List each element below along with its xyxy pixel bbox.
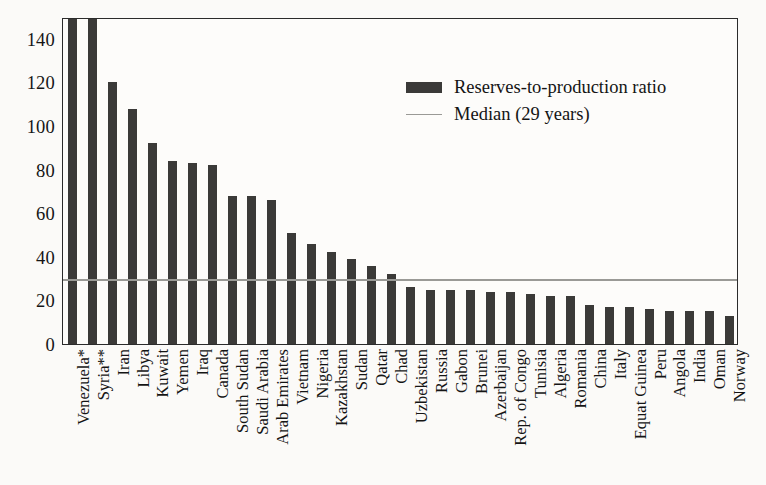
- legend-item-reserves: Reserves-to-production ratio: [403, 74, 703, 101]
- x-axis-tick-label: Qatar: [370, 349, 387, 386]
- bar: [347, 259, 356, 344]
- x-axis-tick-label: India: [688, 349, 705, 383]
- x-axis-tick-label: Iraq: [191, 349, 208, 376]
- bar: [228, 196, 237, 344]
- median-reference-line: [63, 279, 737, 280]
- x-axis-tick-label: Saudi Arabia: [251, 349, 268, 435]
- x-axis-tick-label: Peru: [649, 349, 666, 379]
- bar: [705, 311, 714, 344]
- y-axis-tick-label: 40: [36, 249, 55, 268]
- legend-label-median: Median (29 years): [445, 105, 590, 124]
- bar: [625, 307, 634, 344]
- bar: [546, 296, 555, 344]
- bar: [327, 252, 336, 344]
- bar: [88, 18, 97, 344]
- x-axis-tick-label: Brunei: [470, 349, 487, 394]
- bar: [128, 109, 137, 344]
- y-axis-tick-label: 60: [36, 205, 55, 224]
- x-axis-tick-label: Equat Guinea: [629, 349, 646, 439]
- bar: [247, 196, 256, 344]
- x-axis-tick-label: Syria**: [92, 349, 109, 400]
- bar-swatch-icon: [403, 82, 445, 93]
- bar: [168, 161, 177, 344]
- x-axis-tick-label: Venezuela*: [72, 349, 89, 425]
- x-axis-tick-label: Chad: [390, 349, 407, 384]
- x-axis-tick-label: Yemen: [171, 349, 188, 395]
- bar: [526, 294, 535, 344]
- x-axis-tick-label: Arab Emirates: [271, 349, 288, 445]
- y-axis-tick-label: 140: [27, 31, 55, 50]
- y-axis-tick-label: 80: [36, 161, 55, 180]
- bar: [367, 266, 376, 344]
- bar: [585, 305, 594, 344]
- bar: [506, 292, 515, 344]
- bar: [685, 311, 694, 344]
- bar: [307, 244, 316, 344]
- x-axis-tick-label: Italy: [609, 349, 626, 379]
- x-axis-tick-label: China: [589, 349, 606, 388]
- legend-item-median: Median (29 years): [403, 101, 703, 128]
- y-axis-tick-label: 0: [46, 336, 55, 355]
- bar: [406, 287, 415, 344]
- bar: [267, 200, 276, 344]
- bar: [108, 82, 117, 344]
- x-axis-tick-label: Kazakhstan: [330, 349, 347, 426]
- x-axis-tick-label: Romania: [569, 349, 586, 409]
- bar: [426, 290, 435, 345]
- bar: [188, 163, 197, 344]
- x-axis-tick-label: Tunisia: [529, 349, 546, 398]
- x-axis-tick-label: Uzbekistan: [410, 349, 427, 423]
- bar: [387, 274, 396, 344]
- bar: [466, 290, 475, 345]
- bar: [645, 309, 654, 344]
- figure-container: 020406080100120140 Venezuela*Syria**Iran…: [0, 0, 766, 485]
- legend-label-reserves: Reserves-to-production ratio: [445, 78, 666, 97]
- x-axis-tick-label: Norway: [728, 349, 745, 402]
- bar: [68, 18, 77, 344]
- x-axis-tick-label: Russia: [430, 349, 447, 393]
- chart-legend: Reserves-to-production ratio Median (29 …: [403, 74, 703, 128]
- x-axis-labels: Venezuela*Syria**IranLibyaKuwaitYemenIra…: [62, 349, 738, 485]
- x-axis-tick-label: South Sudan: [231, 349, 248, 433]
- bar: [725, 316, 734, 344]
- x-axis-tick-label: Sudan: [350, 349, 367, 390]
- bars-layer: [63, 19, 737, 344]
- x-axis-tick-label: Canada: [211, 349, 228, 398]
- x-axis-tick-label: Azerbaijan: [489, 349, 506, 421]
- x-axis-tick-label: Algeria: [549, 349, 566, 398]
- plot-area: [62, 18, 738, 345]
- x-axis-tick-label: Kuwait: [151, 349, 168, 398]
- bar: [446, 290, 455, 345]
- x-axis-tick-label: Libya: [132, 349, 149, 388]
- bar: [566, 296, 575, 344]
- bar: [148, 143, 157, 344]
- x-axis-tick-label: Rep. of Congo: [509, 349, 526, 446]
- x-axis-tick-label: Iran: [112, 349, 129, 376]
- y-axis: 020406080100120140: [0, 18, 62, 345]
- x-axis-tick-label: Vietnam: [291, 349, 308, 405]
- bar: [208, 165, 217, 344]
- bar: [605, 307, 614, 344]
- y-axis-tick-label: 20: [36, 292, 55, 311]
- bar: [486, 292, 495, 344]
- line-swatch-icon: [403, 114, 445, 116]
- bar: [665, 311, 674, 344]
- x-axis-tick-label: Angola: [668, 349, 685, 398]
- y-axis-tick-label: 100: [27, 118, 55, 137]
- x-axis-tick-label: Oman: [708, 349, 725, 389]
- y-axis-tick-label: 120: [27, 74, 55, 93]
- bar: [287, 233, 296, 344]
- x-axis-tick-label: Gabon: [450, 349, 467, 393]
- x-axis-tick-label: Nigeria: [311, 349, 328, 398]
